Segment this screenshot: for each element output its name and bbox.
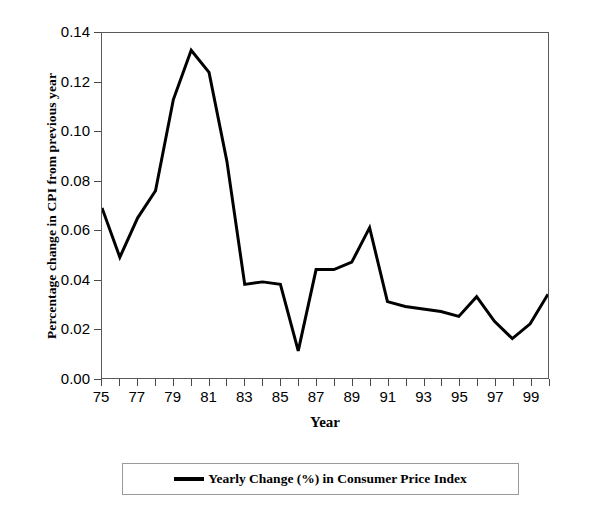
cpi-line-chart-figure: Percentage change in CPI from previous y… xyxy=(0,0,591,519)
y-tick-mark xyxy=(94,181,101,182)
x-tick-mark xyxy=(226,379,227,386)
x-tick-label: 83 xyxy=(224,389,264,404)
x-tick-label: 99 xyxy=(511,389,551,404)
y-tick-mark xyxy=(94,32,101,33)
x-tick-label: 87 xyxy=(296,389,336,404)
x-tick-label: 77 xyxy=(117,389,157,404)
series-line-cpi xyxy=(102,50,548,351)
x-tick-mark xyxy=(191,379,192,386)
x-tick-mark xyxy=(280,379,281,386)
x-tick-mark xyxy=(406,379,407,386)
x-tick-label: 97 xyxy=(475,389,515,404)
y-tick-label: 0.10 xyxy=(44,123,90,138)
x-tick-mark xyxy=(209,379,210,386)
x-tick-mark xyxy=(477,379,478,386)
y-tick-label: 0.02 xyxy=(44,321,90,336)
x-tick-mark xyxy=(513,379,514,386)
y-axis-tick-labels: 0.140.120.100.080.060.040.020.00 xyxy=(38,0,90,519)
y-tick-mark xyxy=(94,329,101,330)
x-tick-label: 93 xyxy=(404,389,444,404)
x-tick-mark xyxy=(101,379,102,386)
x-tick-mark xyxy=(495,379,496,386)
x-tick-label: 75 xyxy=(81,389,121,404)
x-tick-mark xyxy=(173,379,174,386)
x-tick-label: 79 xyxy=(153,389,193,404)
x-tick-mark xyxy=(370,379,371,386)
y-tick-label: 0.00 xyxy=(44,371,90,386)
y-tick-label: 0.12 xyxy=(44,74,90,89)
y-tick-mark xyxy=(94,230,101,231)
x-tick-label: 95 xyxy=(439,389,479,404)
x-tick-mark xyxy=(244,379,245,386)
y-tick-mark xyxy=(94,379,101,380)
x-tick-label: 89 xyxy=(332,389,372,404)
x-tick-mark xyxy=(155,379,156,386)
x-tick-label: 85 xyxy=(260,389,300,404)
chart-legend: Yearly Change (%) in Consumer Price Inde… xyxy=(122,463,519,495)
x-tick-mark xyxy=(334,379,335,386)
y-tick-label: 0.06 xyxy=(44,222,90,237)
plot-area xyxy=(101,32,549,379)
x-tick-mark xyxy=(531,379,532,386)
x-tick-mark xyxy=(459,379,460,386)
x-tick-mark xyxy=(352,379,353,386)
legend-label: Yearly Change (%) in Consumer Price Inde… xyxy=(208,471,466,487)
x-tick-label: 81 xyxy=(189,389,229,404)
x-tick-mark xyxy=(119,379,120,386)
x-tick-mark xyxy=(388,379,389,386)
y-tick-label: 0.04 xyxy=(44,272,90,287)
y-tick-mark xyxy=(94,82,101,83)
y-tick-label: 0.14 xyxy=(44,24,90,39)
data-line-svg xyxy=(102,33,548,378)
y-tick-mark xyxy=(94,280,101,281)
y-tick-label: 0.08 xyxy=(44,173,90,188)
x-tick-mark xyxy=(424,379,425,386)
x-tick-mark xyxy=(549,379,550,386)
x-tick-mark xyxy=(137,379,138,386)
x-tick-mark xyxy=(298,379,299,386)
y-tick-mark xyxy=(94,131,101,132)
x-tick-mark xyxy=(316,379,317,386)
x-axis-title: Year xyxy=(101,414,549,431)
x-tick-mark xyxy=(441,379,442,386)
x-tick-label: 91 xyxy=(368,389,408,404)
legend-line-swatch-icon xyxy=(174,477,204,481)
x-tick-mark xyxy=(262,379,263,386)
